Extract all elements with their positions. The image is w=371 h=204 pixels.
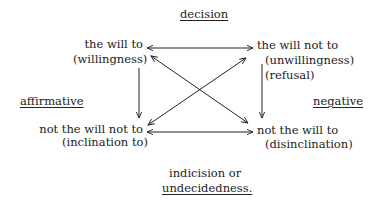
node-bottom-left-line2: (inclination to)	[62, 136, 148, 149]
node-bottom-right-line2: (disinclination)	[265, 138, 353, 151]
label-decision: decision	[180, 8, 228, 21]
label-negative: negative	[313, 95, 363, 108]
label-affirmative: affirmative	[20, 95, 84, 108]
node-top-left-line2: (willingness)	[73, 53, 147, 66]
label-undecidedness: undecidedness.	[162, 182, 252, 195]
node-bottom-right-line1: not the will to	[257, 124, 338, 137]
label-indicision: indicision or	[169, 167, 241, 180]
node-top-right-line3: (refusal)	[265, 69, 314, 82]
arrow-diagonal-bl-tr	[148, 58, 246, 125]
node-top-right-line2: (unwillingness)	[265, 54, 354, 67]
node-top-right-line1: the will not to	[257, 39, 338, 52]
node-top-left-line1: the will to	[84, 38, 143, 51]
